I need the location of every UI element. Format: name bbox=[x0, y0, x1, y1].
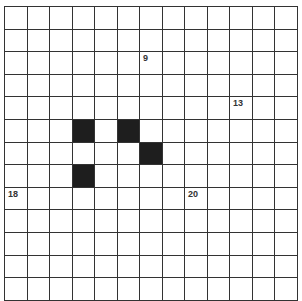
grid-cell[interactable] bbox=[185, 210, 208, 233]
grid-cell[interactable] bbox=[50, 120, 73, 143]
grid-cell[interactable] bbox=[230, 52, 253, 75]
grid-cell[interactable] bbox=[163, 120, 186, 143]
grid-cell[interactable] bbox=[118, 165, 141, 188]
grid-cell[interactable] bbox=[230, 7, 253, 30]
grid-cell[interactable] bbox=[253, 256, 276, 279]
grid-cell[interactable] bbox=[95, 210, 118, 233]
grid-cell[interactable] bbox=[253, 120, 276, 143]
grid-cell[interactable] bbox=[73, 233, 96, 256]
grid-cell[interactable] bbox=[163, 97, 186, 120]
grid-cell[interactable] bbox=[118, 75, 141, 98]
grid-cell[interactable] bbox=[275, 30, 298, 53]
grid-cell[interactable] bbox=[230, 278, 253, 301]
grid-cell[interactable] bbox=[28, 233, 51, 256]
grid-cell[interactable] bbox=[230, 120, 253, 143]
grid-cell[interactable] bbox=[73, 256, 96, 279]
grid-cell[interactable] bbox=[118, 278, 141, 301]
grid-cell[interactable] bbox=[50, 97, 73, 120]
grid-cell[interactable] bbox=[208, 75, 231, 98]
grid-cell[interactable] bbox=[230, 210, 253, 233]
grid-cell[interactable] bbox=[163, 7, 186, 30]
grid-cell[interactable] bbox=[140, 210, 163, 233]
grid-cell[interactable] bbox=[118, 52, 141, 75]
grid-cell[interactable] bbox=[275, 165, 298, 188]
grid-cell[interactable] bbox=[230, 30, 253, 53]
grid-cell[interactable] bbox=[275, 75, 298, 98]
grid-cell[interactable] bbox=[208, 52, 231, 75]
grid-cell[interactable] bbox=[163, 30, 186, 53]
grid-cell[interactable] bbox=[50, 30, 73, 53]
grid-cell[interactable]: 9 bbox=[140, 52, 163, 75]
grid-cell[interactable] bbox=[50, 233, 73, 256]
grid-cell[interactable] bbox=[140, 30, 163, 53]
grid-cell[interactable] bbox=[28, 30, 51, 53]
grid-cell[interactable] bbox=[163, 143, 186, 166]
grid-cell[interactable] bbox=[28, 75, 51, 98]
grid-cell[interactable] bbox=[95, 52, 118, 75]
grid-cell[interactable] bbox=[163, 256, 186, 279]
grid-cell[interactable] bbox=[208, 30, 231, 53]
grid-cell[interactable]: 20 bbox=[185, 188, 208, 211]
grid-cell[interactable] bbox=[5, 7, 28, 30]
grid-cell[interactable] bbox=[73, 210, 96, 233]
grid-cell[interactable] bbox=[275, 188, 298, 211]
grid-cell[interactable] bbox=[275, 7, 298, 30]
grid-cell[interactable] bbox=[5, 52, 28, 75]
grid-cell[interactable] bbox=[275, 143, 298, 166]
grid-cell[interactable] bbox=[73, 75, 96, 98]
grid-cell[interactable] bbox=[140, 188, 163, 211]
grid-cell[interactable] bbox=[140, 278, 163, 301]
grid-cell[interactable] bbox=[185, 97, 208, 120]
grid-cell[interactable] bbox=[5, 30, 28, 53]
grid-cell[interactable] bbox=[73, 97, 96, 120]
grid-cell[interactable] bbox=[118, 30, 141, 53]
grid-cell[interactable] bbox=[253, 7, 276, 30]
grid-cell[interactable] bbox=[208, 256, 231, 279]
grid-cell[interactable] bbox=[185, 165, 208, 188]
grid-cell[interactable] bbox=[185, 120, 208, 143]
grid-cell[interactable] bbox=[208, 165, 231, 188]
grid-cell[interactable] bbox=[230, 256, 253, 279]
grid-cell[interactable] bbox=[140, 165, 163, 188]
grid-cell[interactable] bbox=[95, 165, 118, 188]
grid-cell[interactable] bbox=[95, 30, 118, 53]
grid-cell[interactable] bbox=[208, 188, 231, 211]
grid-cell[interactable] bbox=[253, 97, 276, 120]
grid-cell[interactable] bbox=[73, 188, 96, 211]
grid-cell[interactable] bbox=[5, 278, 28, 301]
grid-cell[interactable] bbox=[253, 143, 276, 166]
grid-cell[interactable] bbox=[163, 75, 186, 98]
grid-cell[interactable] bbox=[28, 278, 51, 301]
grid-cell[interactable] bbox=[185, 30, 208, 53]
grid-cell[interactable] bbox=[28, 7, 51, 30]
grid-cell[interactable] bbox=[28, 165, 51, 188]
grid-cell[interactable] bbox=[208, 7, 231, 30]
grid-cell[interactable] bbox=[140, 97, 163, 120]
grid-cell[interactable] bbox=[253, 75, 276, 98]
grid-cell[interactable]: 18 bbox=[5, 188, 28, 211]
grid-cell[interactable] bbox=[95, 97, 118, 120]
grid-cell[interactable] bbox=[5, 120, 28, 143]
grid-cell[interactable] bbox=[208, 278, 231, 301]
grid-cell[interactable] bbox=[28, 97, 51, 120]
grid-cell[interactable] bbox=[163, 210, 186, 233]
grid-cell[interactable] bbox=[163, 278, 186, 301]
grid-cell[interactable] bbox=[140, 7, 163, 30]
grid-cell[interactable] bbox=[5, 210, 28, 233]
grid-cell[interactable] bbox=[95, 233, 118, 256]
grid-cell[interactable] bbox=[95, 143, 118, 166]
grid-cell[interactable] bbox=[5, 143, 28, 166]
grid-cell[interactable] bbox=[73, 143, 96, 166]
grid-cell[interactable] bbox=[185, 278, 208, 301]
grid-cell[interactable] bbox=[95, 7, 118, 30]
grid-cell[interactable] bbox=[73, 7, 96, 30]
grid-cell[interactable] bbox=[275, 210, 298, 233]
grid-cell[interactable] bbox=[118, 7, 141, 30]
grid-cell[interactable] bbox=[73, 278, 96, 301]
grid-cell[interactable] bbox=[230, 75, 253, 98]
grid-cell[interactable] bbox=[230, 233, 253, 256]
grid-cell[interactable] bbox=[253, 30, 276, 53]
grid-cell[interactable] bbox=[95, 188, 118, 211]
grid-cell[interactable] bbox=[208, 143, 231, 166]
grid-cell[interactable] bbox=[163, 188, 186, 211]
